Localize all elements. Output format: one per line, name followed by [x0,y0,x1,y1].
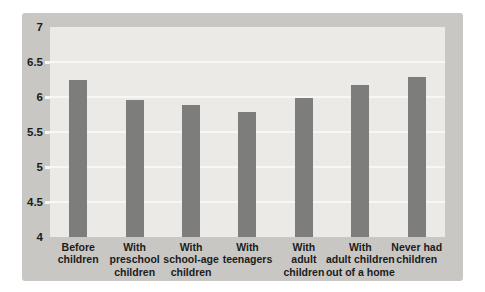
bar-column-never-had-children: Never hadchildren [389,27,445,281]
y-tick-label: 6.5 [27,56,43,68]
bar-columns: BeforechildrenWithpreschoolchildrenWiths… [50,27,445,281]
x-axis-label-never-had-children: Never hadchildren [377,241,457,266]
bar-zone [389,27,445,237]
bar-with-school-age-children [182,105,200,237]
y-tick-label: 4.5 [27,196,43,208]
bar-zone [219,27,275,237]
bar-before-children [69,80,87,237]
bar-zone [332,27,388,237]
y-tick-label: 6 [37,91,43,103]
bar-with-teenagers [238,112,256,237]
bar-with-preschool-children [126,100,144,237]
bar-with-adult-children [295,98,313,237]
y-tick-label: 5.5 [27,126,43,138]
bar-with-adult-children-out-of-a-home [351,85,369,237]
bar-zone [50,27,106,237]
bar-zone [276,27,332,237]
bar-zone [106,27,162,237]
bar-zone [163,27,219,237]
figure-page: 76.565.554.54 BeforechildrenWithpreschoo… [0,0,485,292]
y-tick-label: 7 [37,21,43,33]
bar-never-had-children [408,77,426,237]
chart-panel: 76.565.554.54 BeforechildrenWithpreschoo… [22,13,463,281]
y-tick-label: 5 [37,161,43,173]
y-axis: 76.565.554.54 [22,27,45,237]
